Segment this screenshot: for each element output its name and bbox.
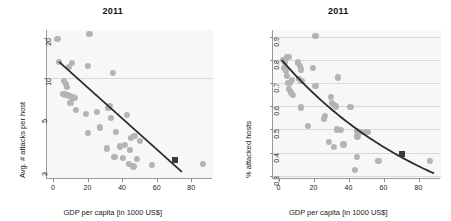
scatter-point (123, 112, 129, 118)
y-tick-label: 0.7 (273, 83, 280, 93)
y-tick-mark (270, 37, 273, 38)
panel-title: 2011 (0, 6, 226, 16)
y-tick-mark (270, 83, 273, 84)
scatter-point (94, 109, 100, 115)
scatter-point (297, 104, 303, 110)
scatter-point (136, 138, 142, 144)
plot-area (46, 30, 213, 178)
scatter-point (352, 167, 358, 173)
y-axis-label: Avg. # attacks per host (18, 102, 27, 178)
scatter-point (104, 145, 110, 151)
scatter-point (86, 31, 92, 37)
gridline (273, 83, 441, 84)
x-tick-label: 80 (187, 184, 195, 191)
highlight-marker (399, 151, 405, 157)
scatter-point (54, 36, 60, 42)
scatter-point (56, 59, 62, 65)
gridline (47, 78, 213, 79)
y-tick-label: 0.5 (273, 129, 280, 139)
scatter-point (354, 133, 360, 139)
scatter-point (69, 60, 75, 66)
x-tick-label: 40 (345, 184, 353, 191)
scatter-point (85, 63, 91, 69)
y-tick-mark (270, 60, 273, 61)
scatter-point (340, 141, 346, 147)
x-tick-mark (314, 179, 315, 182)
x-tick-label: 40 (118, 184, 126, 191)
y-tick-label: 0.4 (273, 153, 280, 163)
x-tick-mark (279, 179, 280, 182)
y-axis-label: % attacked hosts (244, 121, 253, 178)
plot-area (272, 30, 441, 178)
x-tick-mark (53, 179, 54, 182)
x-tick-mark (349, 179, 350, 182)
x-tick-mark (191, 179, 192, 182)
x-tick-mark (88, 179, 89, 182)
x-tick-label: 0 (277, 184, 281, 191)
x-axis-line (272, 178, 440, 179)
scatter-point (332, 103, 338, 109)
scatter-point (331, 144, 337, 150)
y-tick-label: 10 (45, 78, 52, 86)
y-tick-mark (270, 153, 273, 154)
scatter-point (286, 54, 292, 60)
scatter-point (97, 124, 103, 130)
panel-avg-attacks-per-host: 2011 Avg. # attacks per host GDP per cap… (0, 0, 226, 221)
y-tick-label: 20 (45, 38, 52, 46)
x-tick-mark (157, 179, 158, 182)
scatter-point (108, 114, 114, 120)
scatter-point (289, 77, 295, 83)
scatter-point (365, 129, 371, 135)
gridline (273, 37, 441, 38)
plot-inner (273, 30, 441, 178)
y-tick-label: 0.8 (273, 60, 280, 70)
scatter-point (130, 163, 136, 169)
y-tick-label: 0.9 (273, 37, 280, 47)
panel-title: 2011 (226, 6, 451, 16)
scatter-point (134, 156, 140, 162)
x-axis-label: GDP per capita [in 1000 US$] (226, 208, 451, 217)
scatter-point (321, 116, 327, 122)
y-tick-mark (270, 129, 273, 130)
plot-inner (47, 30, 213, 178)
scatter-point (149, 162, 155, 168)
y-tick-label: 5 (41, 119, 48, 123)
x-tick-label: 60 (380, 184, 388, 191)
scatter-point (427, 158, 433, 164)
scatter-point (297, 66, 303, 72)
highlight-marker (172, 157, 178, 163)
y-tick-mark (270, 176, 273, 177)
figure-two-panel-scatter: 2011 Avg. # attacks per host GDP per cap… (0, 0, 451, 221)
scatter-point (353, 154, 359, 160)
scatter-point (312, 33, 318, 39)
scatter-point (83, 111, 89, 117)
scatter-point (304, 123, 310, 129)
scatter-point (107, 103, 113, 109)
x-axis-line (46, 178, 212, 179)
scatter-point (375, 158, 381, 164)
scatter-point (290, 92, 296, 98)
x-tick-label: 0 (51, 184, 55, 191)
scatter-point (110, 70, 116, 76)
scatter-point (64, 84, 70, 90)
x-tick-mark (122, 179, 123, 182)
scatter-point (200, 161, 206, 167)
gridline (273, 176, 441, 177)
x-tick-mark (419, 179, 420, 182)
scatter-point (310, 65, 316, 71)
y-tick-mark (270, 106, 273, 107)
scatter-point (67, 99, 73, 105)
x-axis-label: GDP per capita [in 1000 US$] (0, 208, 226, 217)
x-tick-label: 60 (153, 184, 161, 191)
scatter-point (72, 107, 78, 113)
scatter-point (347, 104, 353, 110)
y-tick-label: 2 (41, 172, 48, 176)
scatter-point (120, 155, 126, 161)
scatter-point (85, 130, 91, 136)
scatter-point (338, 127, 344, 133)
x-tick-label: 20 (310, 184, 318, 191)
scatter-point (127, 147, 133, 153)
y-tick-label: 0.6 (273, 106, 280, 116)
scatter-point (335, 74, 341, 80)
x-tick-mark (384, 179, 385, 182)
